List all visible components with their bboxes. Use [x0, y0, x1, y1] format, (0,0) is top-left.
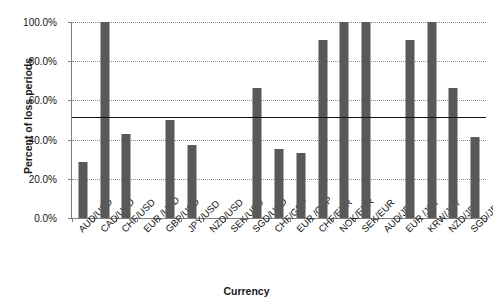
plot-area: 0.0%20.0%40.0%60.0%80.0%100.0% — [71, 22, 486, 219]
bar-slot — [421, 22, 443, 218]
x-tick-label: EUR /JPY — [403, 227, 411, 235]
bar-slot — [203, 22, 225, 218]
x-tick-label: AUD/USD — [76, 227, 84, 235]
x-tick-label: EUR /USD — [141, 227, 149, 235]
bar[interactable] — [449, 88, 458, 218]
reference-line — [72, 117, 486, 118]
bar[interactable] — [471, 137, 480, 218]
x-axis-title: Currency — [0, 285, 493, 297]
x-tick-label: SEK/EUR — [359, 227, 367, 235]
bar-slot — [442, 22, 464, 218]
bar[interactable] — [122, 134, 131, 218]
bar[interactable] — [296, 153, 305, 218]
bar-slot — [137, 22, 159, 218]
y-tick-label: 60.0% — [3, 95, 57, 106]
x-tick-label: CHF/EUR — [316, 227, 324, 235]
bar-slot — [94, 22, 116, 218]
x-tick-label: GBP/USD — [163, 227, 171, 235]
bar-slot — [333, 22, 355, 218]
bar-slot — [268, 22, 290, 218]
x-tick-label: CHF/GBP — [272, 227, 280, 235]
bar[interactable] — [166, 120, 175, 218]
x-tick-label: CHF/USD — [120, 227, 128, 235]
bar-slot — [355, 22, 377, 218]
bar-slot — [399, 22, 421, 218]
y-tick-label: 40.0% — [3, 134, 57, 145]
bar[interactable] — [318, 40, 327, 218]
y-tick-label: 100.0% — [3, 17, 57, 28]
bar[interactable] — [427, 22, 436, 218]
x-tick-label: CAD/USD — [98, 227, 106, 235]
x-tick-mark — [72, 218, 73, 222]
y-tick-label: 20.0% — [3, 173, 57, 184]
bar-slot — [246, 22, 268, 218]
bar[interactable] — [187, 145, 196, 219]
bar[interactable] — [362, 22, 371, 218]
bar-slot — [290, 22, 312, 218]
bar[interactable] — [253, 88, 262, 218]
bar-chart: Percent of loss periods 0.0%20.0%40.0%60… — [0, 0, 493, 304]
bar-slot — [72, 22, 94, 218]
bar[interactable] — [274, 149, 283, 218]
x-tick-label: NOK/EUR — [337, 227, 345, 235]
bar-slot — [377, 22, 399, 218]
bar[interactable] — [405, 40, 414, 218]
x-tick-label: SGD/JPY — [468, 227, 476, 235]
bar-slot — [312, 22, 334, 218]
bar-slot — [116, 22, 138, 218]
x-tick-label: KRW/JPY — [425, 227, 433, 235]
bar[interactable] — [100, 22, 109, 218]
y-tick-label: 80.0% — [3, 56, 57, 67]
x-tick-label: NZD/USD — [207, 227, 215, 235]
x-tick-label: EUR /GBP — [294, 227, 302, 235]
bar-slot — [181, 22, 203, 218]
bar-slot — [225, 22, 247, 218]
x-tick-label: SGD/USD — [250, 227, 258, 235]
x-tick-label: JPY/USD — [185, 227, 193, 235]
y-tick-label: 0.0% — [3, 213, 57, 224]
bar[interactable] — [78, 162, 87, 218]
bar-slot — [159, 22, 181, 218]
x-tick-label: NZD/JPY — [446, 227, 454, 235]
x-tick-label: AUD/JPY — [381, 227, 389, 235]
bar-slot — [464, 22, 486, 218]
bar[interactable] — [340, 22, 349, 218]
x-tick-label: SEK/USD — [229, 227, 237, 235]
